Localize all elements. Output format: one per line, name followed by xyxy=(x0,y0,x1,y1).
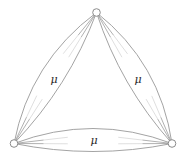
edge-stub xyxy=(78,13,96,36)
multigraph-svg: μμμ xyxy=(0,0,185,160)
edge-multiplicity-label: μ xyxy=(134,73,141,86)
edge-stub-fade xyxy=(30,99,43,119)
edge-stub-fade xyxy=(118,137,142,140)
edge-stub-fade xyxy=(63,35,78,54)
node-bottom-right xyxy=(168,140,176,148)
node-top xyxy=(93,9,101,17)
multigraph-figure: μμμ xyxy=(0,0,185,160)
edge-stub-fade xyxy=(114,35,128,54)
edge-multiplicity-label: μ xyxy=(90,134,97,147)
edge-bundle-top-bottom-left: μ xyxy=(14,13,97,144)
edge-bundle-bottom-left-bottom-right: μ xyxy=(14,129,172,152)
node-bottom-left xyxy=(10,140,18,148)
edge-stub-fade xyxy=(27,96,37,118)
edge-stub-fade xyxy=(110,37,121,57)
edge-stub xyxy=(81,13,96,38)
edge-stub-fade xyxy=(146,99,158,119)
edge-stub-fade xyxy=(69,37,82,57)
edge-bundle-top-bottom-right: μ xyxy=(97,13,173,144)
edge-multiplicity-label: μ xyxy=(50,73,57,86)
edge-stub-fade xyxy=(152,96,161,117)
edge-stub-fade xyxy=(44,137,68,140)
